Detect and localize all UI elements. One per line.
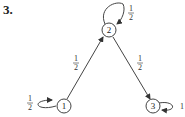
label-edge-2-3: 1 2 (137, 54, 143, 72)
svg-text:1: 1 (28, 94, 32, 103)
label-loop-1: 1 2 (27, 94, 33, 112)
svg-text:1: 1 (180, 102, 184, 111)
self-loop-2 (103, 3, 124, 24)
label-edge-1-2: 1 2 (73, 54, 79, 72)
self-loop-3 (159, 103, 173, 111)
self-loop-1 (38, 100, 56, 108)
svg-text:1: 1 (74, 54, 78, 63)
edge-2-to-3 (113, 37, 150, 99)
svg-text:2: 2 (74, 63, 78, 72)
label-loop-2: 1 2 (128, 4, 134, 22)
node-1: 1 (57, 99, 71, 113)
node-3: 3 (146, 99, 160, 113)
svg-text:1: 1 (62, 101, 67, 111)
svg-text:2: 2 (28, 103, 32, 112)
svg-text:3: 3 (151, 101, 156, 111)
svg-text:1: 1 (129, 4, 133, 13)
svg-text:1: 1 (138, 54, 142, 63)
svg-text:2: 2 (107, 25, 112, 35)
markov-chain-diagram: 1 2 3 1 2 1 2 1 2 1 2 1 (0, 0, 185, 117)
svg-text:2: 2 (129, 13, 133, 22)
edge-1-to-2 (67, 37, 103, 99)
label-loop-3: 1 (180, 102, 184, 111)
node-2: 2 (102, 23, 116, 37)
svg-text:2: 2 (138, 63, 142, 72)
